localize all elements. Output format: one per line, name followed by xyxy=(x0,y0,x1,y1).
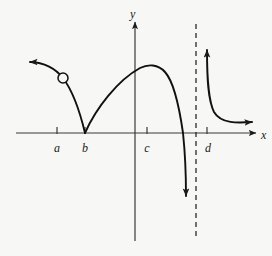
tick-label-b: b xyxy=(82,141,88,155)
y-axis-label: y xyxy=(129,7,136,21)
graph-figure: x y abcd xyxy=(0,0,272,256)
open-circle-icon xyxy=(58,73,68,83)
tick-label-d: d xyxy=(205,141,212,155)
tick-label-a: a xyxy=(54,141,60,155)
graph-canvas: x y abcd xyxy=(0,0,272,256)
x-axis-label: x xyxy=(260,128,267,142)
tick-label-c: c xyxy=(144,141,150,155)
figure-background xyxy=(0,0,272,256)
